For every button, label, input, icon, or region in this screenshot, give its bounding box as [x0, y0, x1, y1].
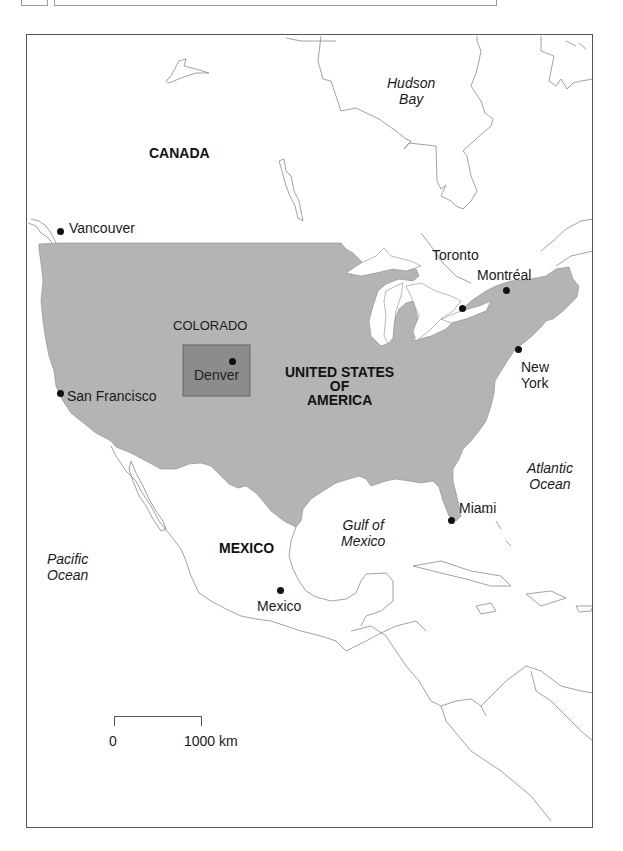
city-dot-new-york: [515, 346, 522, 353]
water-label-atlantic-ocean: Atlantic Ocean: [527, 460, 573, 492]
city-label-montreal: Montréal: [477, 267, 531, 283]
city-dot-montreal: [503, 287, 510, 294]
latin-america-outlines: [111, 446, 593, 821]
top-small-box: [21, 0, 48, 6]
city-dot-mexico-city: [277, 587, 284, 594]
city-dot-toronto: [459, 305, 466, 312]
hudson-bay-line-1: Hudson: [387, 75, 435, 91]
city-dot-vancouver: [57, 228, 64, 235]
city-label-vancouver: Vancouver: [69, 220, 135, 236]
pacific-line-2: Ocean: [47, 567, 88, 583]
hudson-bay-line-2: Bay: [387, 91, 435, 107]
city-label-new-york: New York: [521, 359, 549, 391]
city-label-mexico-city: Mexico: [257, 598, 301, 614]
new-york-line-2: York: [521, 375, 549, 391]
pacific-line-1: Pacific: [47, 551, 88, 567]
scale-label-start: 0: [109, 733, 117, 749]
region-label-colorado: COLORADO: [173, 319, 247, 334]
scale-label-end: 1000 km: [184, 733, 238, 749]
map-canvas: [27, 35, 593, 828]
city-label-denver: Denver: [194, 367, 239, 383]
top-wide-box: [54, 0, 497, 6]
city-dot-san-francisco: [57, 390, 64, 397]
gulf-line-1: Gulf of: [341, 517, 385, 533]
water-label-pacific-ocean: Pacific Ocean: [47, 551, 88, 583]
city-label-toronto: Toronto: [432, 247, 479, 263]
gulf-line-2: Mexico: [341, 533, 385, 549]
city-label-miami: Miami: [459, 500, 496, 516]
country-label-canada: CANADA: [149, 145, 210, 161]
city-dot-miami: [448, 517, 455, 524]
atlantic-line-2: Ocean: [527, 476, 573, 492]
city-dot-denver: [229, 358, 236, 365]
usa-line-1: UNITED STATES: [285, 365, 394, 379]
usa-line-2: OF: [285, 379, 394, 393]
country-label-usa: UNITED STATES OF AMERICA: [285, 365, 394, 407]
atlantic-line-1: Atlantic: [527, 460, 573, 476]
new-york-line-1: New: [521, 359, 549, 375]
city-label-san-francisco: San Francisco: [67, 388, 156, 404]
map-frame: CANADA Hudson Bay Vancouver Toronto Mont…: [26, 34, 593, 828]
scale-bar: [114, 716, 202, 726]
usa-line-3: AMERICA: [285, 393, 394, 407]
country-label-mexico: MEXICO: [219, 540, 274, 556]
water-label-hudson-bay: Hudson Bay: [387, 75, 435, 107]
water-label-gulf-of-mexico: Gulf of Mexico: [341, 517, 385, 549]
